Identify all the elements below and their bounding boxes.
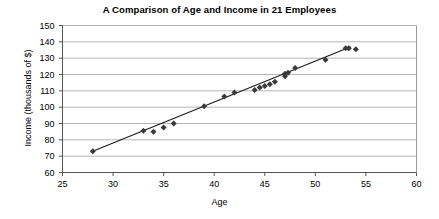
data-point [262, 83, 268, 89]
data-point [346, 45, 352, 51]
x-tick-label: 30 [100, 179, 126, 189]
data-point [257, 85, 263, 91]
y-tick-label: 90 [29, 119, 55, 129]
data-point [161, 125, 167, 131]
y-tick-label: 150 [29, 21, 55, 31]
data-point [140, 128, 146, 134]
y-tick-label: 120 [29, 70, 55, 80]
trendline-segment [91, 47, 351, 152]
x-tick-label: 35 [151, 179, 177, 189]
data-points [90, 45, 359, 154]
y-tick-label: 60 [29, 168, 55, 178]
scatter-chart: A Comparison of Age and Income in 21 Emp… [0, 0, 439, 219]
x-tick-label: 40 [201, 179, 227, 189]
data-point [272, 79, 278, 85]
data-point [151, 129, 157, 135]
x-tick-label: 60 [404, 179, 430, 189]
data-point [201, 103, 207, 109]
x-tick-label: 55 [353, 179, 379, 189]
y-tick-label: 140 [29, 37, 55, 47]
x-tick-label: 50 [302, 179, 328, 189]
data-point [252, 87, 258, 93]
gridlines [63, 26, 417, 157]
x-tick-label: 25 [50, 179, 76, 189]
data-point [90, 148, 96, 154]
data-point [267, 81, 273, 87]
x-tick-label: 45 [252, 179, 278, 189]
data-point [353, 46, 359, 52]
data-point [171, 121, 177, 127]
y-tick-label: 70 [29, 151, 55, 161]
axis-ticks [59, 26, 417, 177]
trendline [91, 47, 351, 152]
y-tick-label: 80 [29, 135, 55, 145]
y-tick-label: 110 [29, 86, 55, 96]
y-tick-label: 100 [29, 102, 55, 112]
axis-lines [63, 26, 417, 173]
y-tick-label: 130 [29, 53, 55, 63]
